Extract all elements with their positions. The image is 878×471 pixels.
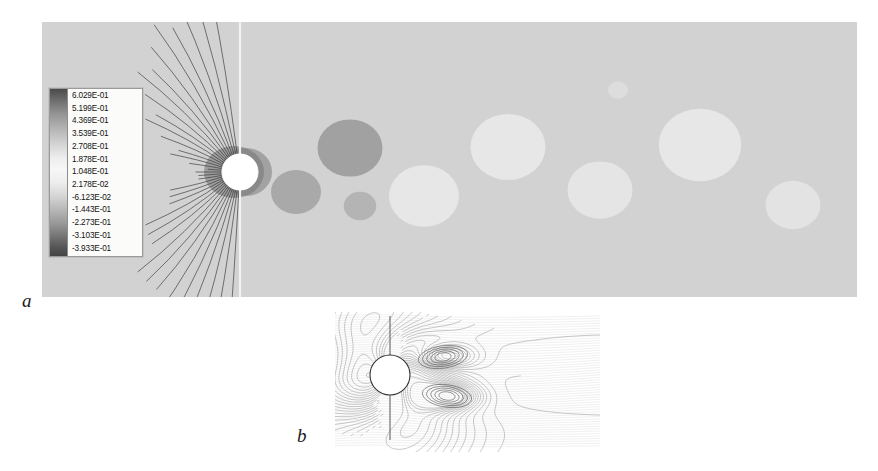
legend-level-9: -1.443E-01 [72,206,142,214]
legend-level-0: 6.029E-01 [72,92,142,100]
legend-level-3: 3.539E-01 [72,130,142,138]
legend-level-2: 4.369E-01 [72,117,142,125]
panel-b [329,306,607,458]
legend-level-4: 2.708E-01 [72,143,142,151]
contour-level-legend: 6.029E-015.199E-014.369E-013.539E-012.70… [49,88,143,257]
legend-level-list: 6.029E-015.199E-014.369E-013.539E-012.70… [68,89,142,256]
panel-b-label: b [297,425,307,447]
legend-level-11: -3.103E-01 [72,232,142,240]
legend-level-10: -2.273E-01 [72,219,142,227]
panel-a-label: a [22,290,32,312]
legend-level-12: -3.933E-01 [72,245,142,253]
panel-b-cylinder [370,355,410,395]
legend-level-6: 1.048E-01 [72,168,142,176]
legend-level-8: -6.123E-02 [72,194,142,202]
legend-colorbar [50,89,68,256]
legend-level-5: 1.878E-01 [72,156,142,164]
legend-level-1: 5.199E-01 [72,105,142,113]
legend-level-7: 2.178E-02 [72,181,142,189]
